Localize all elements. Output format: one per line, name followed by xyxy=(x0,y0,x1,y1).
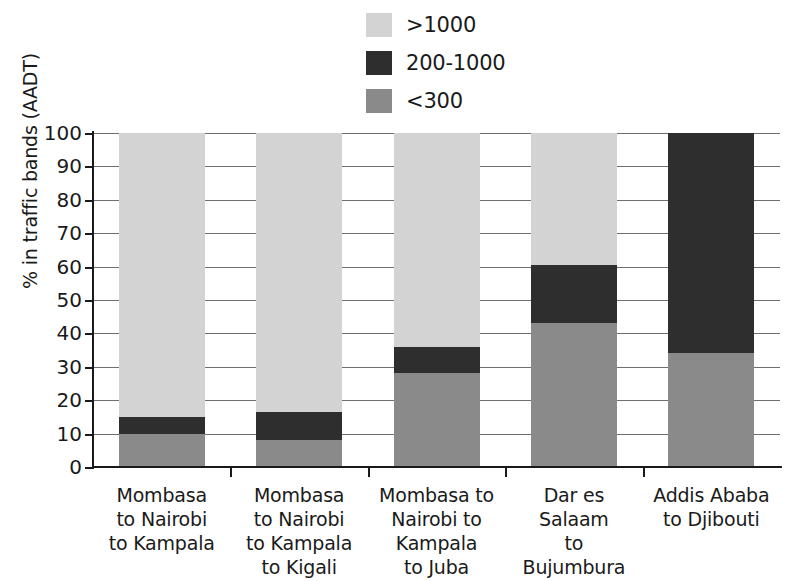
bar-segment xyxy=(531,323,617,467)
bar-stack xyxy=(256,133,342,467)
x-axis-category-line: to Nairobi xyxy=(230,507,368,531)
y-axis-tick-mark xyxy=(85,333,94,335)
y-axis-tick-label: 90 xyxy=(57,156,82,176)
y-axis-tick-mark xyxy=(85,233,94,235)
y-axis-tick-label: 70 xyxy=(57,223,82,243)
y-axis-tick-label: 100 xyxy=(44,123,82,143)
bar-segment xyxy=(531,265,617,323)
x-axis-category-label: Dar esSalaamtoBujumbura xyxy=(505,483,643,579)
x-axis-category-line: to Kampala xyxy=(93,531,231,555)
y-axis-tick-mark xyxy=(85,400,94,402)
bar-segment xyxy=(394,373,480,467)
x-axis-category-line: Nairobi to xyxy=(368,507,506,531)
bar-segment xyxy=(668,353,754,467)
bar-segment xyxy=(394,133,480,347)
x-axis-category-line: to Juba xyxy=(368,555,506,579)
y-axis-tick-mark xyxy=(85,166,94,168)
x-axis-category-label: Mombasato Nairobito Kampalato Kigali xyxy=(230,483,368,579)
x-axis-line xyxy=(92,466,782,468)
bar-segment xyxy=(668,133,754,353)
x-axis-category-line: to Kampala xyxy=(230,531,368,555)
bar-segment xyxy=(119,434,205,467)
y-axis-tick-label: 40 xyxy=(57,323,82,343)
x-axis-category-line: Salaam xyxy=(505,507,643,531)
x-axis-category-line: to Kigali xyxy=(230,555,368,579)
plot-area xyxy=(93,133,780,467)
y-axis-tick-label: 30 xyxy=(57,357,82,377)
stacked-bar-chart: % in traffic bands (AADT) 01020304050607… xyxy=(0,0,785,581)
y-axis-tick-label: 80 xyxy=(57,190,82,210)
y-axis-tick-label: 20 xyxy=(57,390,82,410)
x-axis-tick-mark xyxy=(643,467,645,477)
x-axis-category-line: to Nairobi xyxy=(93,507,231,531)
x-axis-tick-mark xyxy=(505,467,507,477)
x-axis-category-label: Addis Ababato Djibouti xyxy=(642,483,780,531)
x-axis-category-line: to Djibouti xyxy=(642,507,780,531)
x-axis-category-line: Bujumbura xyxy=(505,555,643,579)
y-axis-tick-labels: 0102030405060708090100 xyxy=(36,133,82,467)
x-axis-category-line: Dar es xyxy=(505,483,643,507)
y-axis-tick-label: 0 xyxy=(69,457,82,477)
x-axis-tick-mark xyxy=(230,467,232,477)
x-axis-category-line: to xyxy=(505,531,643,555)
y-axis-tick-label: 50 xyxy=(57,290,82,310)
bar-segment xyxy=(256,133,342,412)
bar-segment xyxy=(394,347,480,374)
x-axis-category-line: Mombasa to xyxy=(368,483,506,507)
bar-stack xyxy=(394,133,480,467)
x-axis-category-line: Addis Ababa xyxy=(642,483,780,507)
bar-segment xyxy=(256,412,342,440)
y-axis-tick-mark xyxy=(85,133,94,135)
bar-segment xyxy=(119,417,205,434)
bar-stack xyxy=(531,133,617,467)
y-axis-tick-label: 10 xyxy=(57,424,82,444)
y-axis-tick-mark xyxy=(85,434,94,436)
y-axis-tick-label: 60 xyxy=(57,257,82,277)
x-axis-category-line: Mombasa xyxy=(230,483,368,507)
x-axis-category-label: Mombasato Nairobito Kampala xyxy=(93,483,231,555)
bar-segment xyxy=(531,133,617,265)
y-axis-tick-mark xyxy=(85,467,94,469)
x-axis-tick-mark xyxy=(368,467,370,477)
x-axis-category-line: Mombasa xyxy=(93,483,231,507)
y-axis-tick-mark xyxy=(85,300,94,302)
x-axis-category-label: Mombasa toNairobi toKampalato Juba xyxy=(368,483,506,579)
bar-stack xyxy=(668,133,754,467)
bar-segment xyxy=(119,133,205,417)
y-axis-tick-mark xyxy=(85,367,94,369)
bar-segment xyxy=(256,440,342,467)
bar-stack xyxy=(119,133,205,467)
x-axis-category-line: Kampala xyxy=(368,531,506,555)
y-axis-tick-mark xyxy=(85,200,94,202)
y-axis-tick-mark xyxy=(85,267,94,269)
